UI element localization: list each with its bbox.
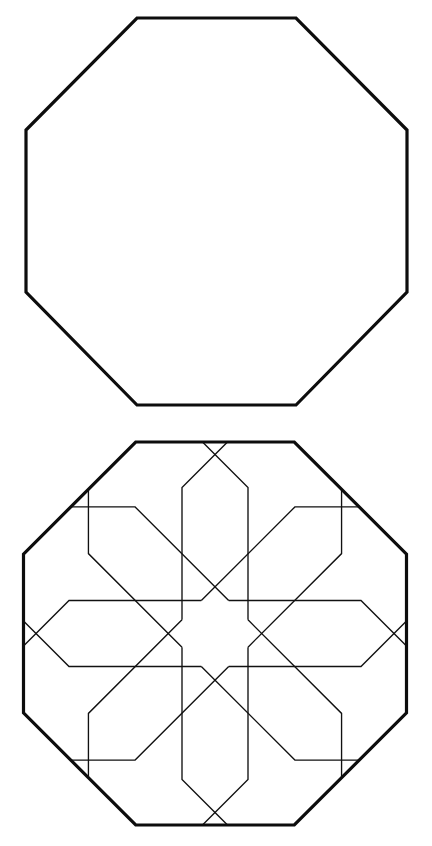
arm-se-line-a [248, 620, 342, 778]
plain-octagon-outline [26, 18, 407, 405]
arm-sw-line-b [88, 620, 182, 778]
arm-ne-line-b [248, 489, 342, 647]
panel-octagon-rosette [24, 442, 407, 825]
rosette-pattern [24, 442, 407, 825]
rosette-octagon-outline [24, 442, 407, 825]
panel-plain-octagon [26, 18, 407, 405]
arm-se-line-b [201, 667, 359, 761]
arm-ne-line-a [201, 507, 359, 601]
arm-nw-line-b [71, 507, 229, 601]
figure-canvas [0, 0, 432, 846]
arm-nw-line-a [88, 489, 182, 647]
arm-sw-line-a [71, 667, 229, 761]
